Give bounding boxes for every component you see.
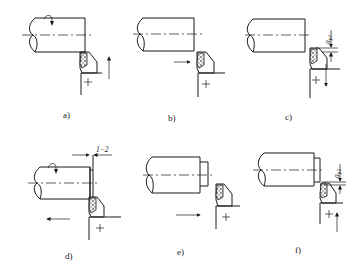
turning-diagram: a) b) (0, 0, 364, 277)
dimension-offset: 1−2 (96, 145, 109, 154)
panel-c: ap1 c) (245, 19, 340, 122)
cutting-tool (216, 184, 240, 229)
panel-label: c) (285, 112, 292, 122)
panel-label: d) (65, 251, 73, 261)
cutting-tool (89, 197, 121, 240)
workpiece (28, 155, 100, 199)
panel-a: a) (22, 15, 109, 120)
rotation-arrow-icon (44, 15, 54, 26)
rotation-arrow-icon (48, 164, 58, 175)
panel-label: e) (177, 247, 184, 257)
panel-b: b) (133, 18, 225, 123)
svg-text:ap1: ap1 (323, 35, 333, 45)
cutting-tool (310, 48, 340, 98)
workpiece (133, 18, 203, 51)
panel-label: f) (295, 245, 301, 255)
cutting-tool (80, 52, 102, 95)
workpiece (22, 18, 93, 52)
panel-f: ap2 f) (253, 153, 346, 255)
panel-d: 1−2 d) (28, 145, 121, 261)
svg-text:ap2: ap2 (332, 169, 342, 179)
workpiece (143, 157, 213, 193)
panel-label: a) (63, 110, 70, 120)
panel-e: e) (143, 157, 240, 257)
panel-label: b) (168, 113, 176, 123)
offset-dimension: 1−2 (72, 145, 112, 155)
cutting-tool (320, 183, 343, 224)
workpiece (245, 19, 312, 52)
cutting-tool (197, 52, 225, 97)
workpiece (253, 153, 322, 186)
